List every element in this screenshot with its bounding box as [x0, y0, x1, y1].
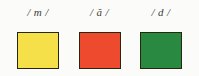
phoneme-column-d[interactable]: / d / [138, 0, 184, 76]
color-swatch-yellow[interactable] [17, 32, 59, 69]
phoneme-label-a-breve: / ă / [90, 6, 109, 20]
color-swatch-red[interactable] [79, 32, 121, 69]
phoneme-label-m: / m / [27, 6, 49, 20]
phoneme-color-card: / m / / ă / / d / [0, 0, 199, 76]
phoneme-column-m[interactable]: / m / [15, 0, 61, 76]
color-swatch-green[interactable] [140, 32, 182, 69]
phoneme-column-a-breve[interactable]: / ă / [77, 0, 123, 76]
phoneme-column-row: / m / / ă / / d / [0, 0, 199, 76]
phoneme-label-d: / d / [151, 6, 170, 20]
